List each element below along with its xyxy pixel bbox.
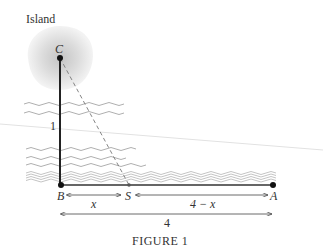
label-x: x: [91, 198, 96, 210]
island-label: Island: [26, 13, 55, 25]
shore-waves: [26, 172, 276, 183]
point-a: [270, 182, 276, 188]
point-s: [127, 183, 131, 187]
label-c: C: [55, 43, 63, 55]
label-vertical-length: 1: [50, 120, 56, 132]
label-4-minus-x: 4 − x: [190, 198, 215, 210]
diagram-canvas: [0, 0, 323, 251]
label-b: B: [57, 190, 64, 202]
figure-caption: FIGURE 1: [132, 235, 188, 247]
label-s: S: [125, 190, 131, 202]
label-a: A: [270, 190, 277, 202]
label-4: 4: [164, 217, 170, 229]
point-b: [58, 182, 64, 188]
segment-cs-dashed: [60, 58, 129, 185]
